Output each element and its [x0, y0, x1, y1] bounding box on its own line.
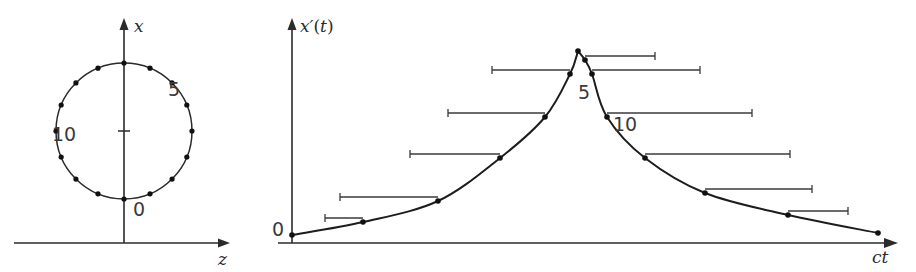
signal-dot	[567, 71, 573, 77]
z-axis-label: z	[217, 249, 228, 269]
figure-canvas: x z 0 5 10 x	[0, 0, 916, 272]
signal-annotation-5: 5	[578, 81, 590, 103]
orbit-dot	[184, 154, 189, 159]
orbit-dot	[147, 191, 152, 196]
signal-dot	[642, 155, 648, 161]
orbit-dot	[121, 196, 126, 201]
xprime-axis	[288, 18, 297, 243]
xprime-label-paren-open: (	[313, 16, 320, 36]
signal-origin-label: 0	[272, 218, 284, 240]
xprime-label-x: x	[300, 16, 310, 36]
signal-dot	[542, 114, 548, 120]
z-axis	[14, 239, 230, 248]
signal-dot	[785, 212, 791, 218]
signal-dot	[582, 57, 588, 63]
x-axis-arrowhead	[120, 18, 129, 30]
orbit-dot	[59, 102, 64, 107]
ct-axis	[278, 238, 898, 248]
signal-dot	[702, 190, 708, 196]
signal-sample-dots	[289, 48, 881, 238]
xprime-label-paren-close: )	[327, 16, 334, 36]
orbit-dot	[147, 66, 152, 71]
signal-dot	[360, 219, 366, 225]
x-axis	[118, 18, 130, 243]
signal-dot	[589, 71, 595, 77]
signal-dot	[435, 198, 441, 204]
orbit-dot	[95, 191, 100, 196]
orbit-dot	[184, 102, 189, 107]
z-axis-arrowhead	[218, 239, 230, 248]
emission-interval-bars	[325, 52, 848, 222]
orbit-dot	[189, 128, 194, 133]
orbit-label-0: 0	[133, 198, 145, 220]
signal-annotation-10: 10	[613, 113, 637, 135]
orbit-label-5: 5	[168, 78, 180, 100]
signal-curve	[292, 51, 878, 235]
left-panel-rotating-clock: x z 0 5 10	[14, 16, 230, 269]
orbit-dot	[73, 80, 78, 85]
xprime-axis-label: x′(t)	[300, 16, 334, 36]
signal-dot	[604, 114, 610, 120]
right-panel-signal-plot: x′(t) ct 0 5 10	[272, 16, 898, 267]
signal-dot	[875, 230, 881, 236]
signal-dot	[497, 155, 503, 161]
orbit-dot	[121, 60, 126, 65]
orbit-dot	[169, 176, 174, 181]
ct-label-t: t	[882, 247, 889, 267]
signal-dot	[575, 48, 581, 54]
orbit-dot	[59, 154, 64, 159]
x-axis-label: x	[134, 16, 144, 36]
relativity-figure: x z 0 5 10 x	[0, 0, 916, 272]
xprime-axis-arrowhead	[288, 18, 297, 30]
ct-axis-label: ct	[872, 247, 889, 267]
orbit-label-10: 10	[52, 123, 76, 145]
orbit-dot	[95, 66, 100, 71]
ct-label-c: c	[872, 247, 882, 267]
orbit-dot	[73, 176, 78, 181]
signal-dot	[289, 232, 295, 238]
